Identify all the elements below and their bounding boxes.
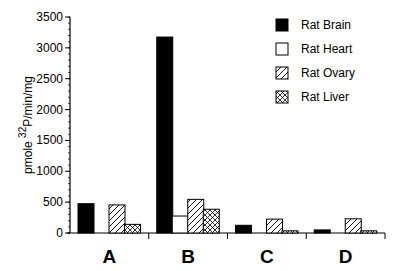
bar-rat-brain-c bbox=[236, 225, 252, 233]
legend-label: Rat Ovary bbox=[301, 66, 355, 80]
legend-label: Rat Liver bbox=[301, 90, 349, 104]
legend-label: Rat Brain bbox=[301, 18, 351, 32]
y-tick-label: 500 bbox=[43, 195, 63, 209]
bar-rat-liver-b bbox=[203, 209, 219, 233]
y-axis-label: pmole 32P/min/mg bbox=[17, 76, 35, 174]
y-tick-label: 2500 bbox=[36, 72, 63, 86]
bar-rat-ovary-b bbox=[188, 199, 204, 233]
category-labels: ABCD bbox=[103, 246, 353, 267]
bar-rat-brain-d bbox=[314, 230, 330, 233]
legend-swatch bbox=[276, 67, 288, 79]
legend-swatch bbox=[276, 19, 288, 31]
y-tick-label: 1500 bbox=[36, 133, 63, 147]
legend: Rat BrainRat HeartRat OvaryRat Liver bbox=[276, 18, 355, 104]
y-tick-label: 2000 bbox=[36, 103, 63, 117]
y-tick-label: 0 bbox=[56, 226, 63, 240]
bar-rat-liver-a bbox=[125, 224, 141, 233]
y-tick-label: 3000 bbox=[36, 41, 63, 55]
bar-rat-ovary-d bbox=[345, 219, 361, 233]
category-label: C bbox=[260, 246, 274, 267]
category-label: A bbox=[103, 246, 117, 267]
bar-rat-brain-b bbox=[157, 37, 173, 233]
bar-rat-ovary-a bbox=[109, 205, 125, 233]
bar-rat-brain-a bbox=[78, 204, 94, 233]
bar-chart: 0500100015002000250030003500 ABCD Rat Br… bbox=[0, 0, 397, 271]
legend-swatch bbox=[276, 43, 288, 55]
bar-rat-heart-b bbox=[172, 216, 188, 233]
y-tick-label: 1000 bbox=[36, 164, 63, 178]
y-tick-label: 3500 bbox=[36, 10, 63, 24]
category-label: D bbox=[339, 246, 353, 267]
bar-rat-ovary-c bbox=[267, 219, 283, 233]
bar-rat-liver-d bbox=[361, 231, 377, 233]
bar-rat-liver-c bbox=[282, 231, 298, 233]
legend-label: Rat Heart bbox=[301, 42, 353, 56]
legend-swatch bbox=[276, 91, 288, 103]
category-label: B bbox=[181, 246, 195, 267]
